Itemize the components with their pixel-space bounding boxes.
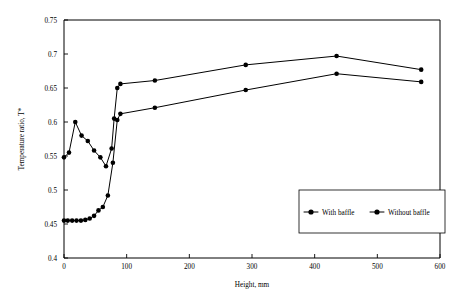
x-tick-label: 300 [247,263,258,271]
temperature-ratio-line-chart: 0.40.450.50.550.60.650.70.75 01002003004… [0,0,459,296]
data-point [106,193,111,198]
data-point [419,67,424,72]
x-tick-label: 0 [62,263,66,271]
x-tick-label: 400 [309,263,320,271]
x-axis-title: Height, mm [235,281,270,289]
series-polyline [64,56,421,166]
data-point [83,218,88,223]
x-tick-label: 200 [184,263,195,271]
data-point [92,148,97,153]
data-point [104,164,109,169]
data-point [243,63,248,68]
data-point [109,146,114,151]
legend-marker-icon [308,209,313,214]
y-tick-label: 0.65 [44,85,57,93]
x-axis-ticks: 0100200300400500600 [62,254,446,271]
y-tick-label: 0.4 [48,255,57,263]
data-point [74,218,79,223]
y-tick-label: 0.7 [48,51,57,59]
data-point [153,105,158,110]
legend-marker-icon [374,209,379,214]
series-with-baffle [62,54,424,169]
data-point [62,155,67,160]
data-point [92,214,97,219]
legend-label: With baffle [322,209,355,217]
y-tick-label: 0.45 [44,221,57,229]
data-point [419,80,424,85]
data-point [115,86,120,91]
chart-container: 0.40.450.50.550.60.650.70.75 01002003004… [0,0,459,296]
y-tick-label: 0.6 [48,119,57,127]
data-point [79,133,84,138]
data-point [334,71,339,76]
data-point [65,218,70,223]
data-point [101,205,106,210]
x-tick-label: 500 [372,263,383,271]
x-tick-label: 600 [435,263,446,271]
y-tick-label: 0.55 [44,153,57,161]
y-axis-title: Temperature ratio, T* [18,107,26,170]
data-point [243,88,248,93]
data-point [118,82,123,87]
data-point [86,139,91,144]
data-point [111,161,116,166]
legend-label: Without baffle [388,209,430,217]
y-tick-label: 0.5 [48,187,57,195]
data-point [96,208,101,213]
y-tick-label: 0.75 [44,17,57,25]
data-point [79,218,84,223]
data-point [98,155,103,160]
data-point [87,216,92,221]
data-point [334,54,339,59]
data-point [115,118,120,123]
chart-legend: With baffleWithout baffle [299,190,445,233]
data-point [70,218,75,223]
x-tick-label: 100 [121,263,132,271]
data-point [73,120,78,125]
data-point [118,112,123,117]
data-point [153,78,158,83]
data-point [67,150,72,155]
